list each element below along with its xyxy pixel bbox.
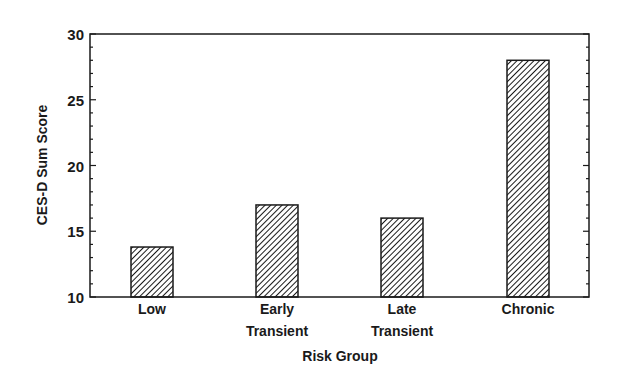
y-tick-label: 20: [67, 158, 84, 175]
bar-low: [131, 247, 173, 297]
bar-late-transient: [381, 218, 423, 297]
bar-chart: 1015202530 LowEarlyTransientLateTransien…: [0, 0, 620, 386]
bars: [131, 60, 549, 297]
y-tick-label: 15: [67, 223, 84, 240]
x-axis-title: Risk Group: [302, 348, 377, 364]
x-category-label: Transient: [371, 323, 434, 339]
y-tick-label: 25: [67, 92, 84, 109]
y-axis-title: CES-D Sum Score: [34, 104, 50, 225]
x-category-label: Late: [388, 301, 417, 317]
x-category-label: Chronic: [502, 301, 555, 317]
x-axis-category-labels: LowEarlyTransientLateTransientChronic: [138, 301, 555, 339]
bar-chronic: [507, 60, 549, 297]
x-category-label: Transient: [246, 323, 309, 339]
y-tick-label: 30: [67, 26, 84, 43]
bar-early-transient: [256, 205, 298, 297]
x-category-label: Low: [138, 301, 166, 317]
x-category-label: Early: [260, 301, 294, 317]
y-tick-label: 10: [67, 289, 84, 306]
